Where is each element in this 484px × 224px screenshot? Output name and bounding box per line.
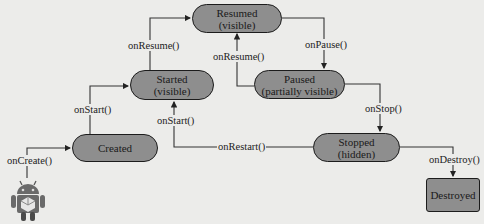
state-label: Destroyed — [430, 189, 475, 201]
state-created: Created — [72, 134, 158, 162]
android-robot-icon — [8, 178, 48, 224]
edge-label-onresume-started: onResume() — [127, 40, 180, 51]
edge-label-oncreate: onCreate() — [6, 155, 53, 166]
edge-label-ondestroy: onDestroy() — [428, 154, 481, 165]
state-sublabel: (visible) — [219, 19, 256, 31]
state-sublabel: (partially visible) — [261, 85, 337, 97]
state-destroyed: Destroyed — [426, 178, 480, 212]
edge-label-onresume-paused: onResume() — [212, 51, 265, 62]
edge-label-onstop: onStop() — [364, 103, 403, 114]
state-started: Started (visible) — [130, 70, 214, 100]
state-sublabel: (hidden) — [338, 148, 375, 160]
state-label: Started — [156, 73, 187, 85]
state-label: Stopped — [338, 136, 374, 148]
edge-label-onstart-created: onStart() — [73, 104, 112, 115]
state-sublabel: (visible) — [154, 85, 191, 97]
edge-label-onpause: onPause() — [304, 39, 348, 50]
state-label: Paused — [284, 73, 315, 85]
state-label: Created — [98, 142, 132, 154]
edge-label-onrestart: onRestart() — [217, 141, 266, 152]
edge-label-onstart-restart: onStart() — [156, 115, 195, 126]
state-stopped: Stopped (hidden) — [313, 133, 400, 162]
state-paused: Paused (partially visible) — [254, 70, 345, 99]
state-resumed: Resumed (visible) — [192, 4, 282, 33]
state-label: Resumed — [217, 7, 258, 19]
